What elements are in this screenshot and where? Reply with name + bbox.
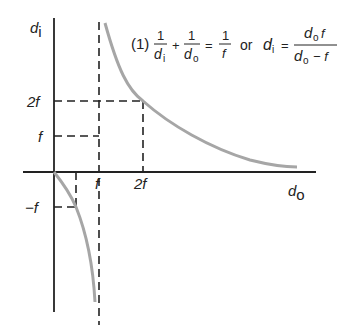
svg-text:1: 1 [222, 28, 229, 43]
svg-text:1: 1 [157, 28, 164, 43]
y-tick-f: f [38, 128, 44, 145]
guide-lines [54, 22, 143, 325]
lens-equation: (1) 1 d i + 1 d o = 1 f or d i = d o f d… [131, 24, 337, 66]
x-tick-f: f [95, 175, 101, 192]
y-tick-neg-f: −f [25, 199, 40, 216]
x-tick-2f: 2f [133, 175, 148, 192]
svg-text:d: d [184, 46, 193, 62]
svg-text:o: o [313, 32, 319, 43]
svg-text:(1): (1) [131, 35, 149, 52]
svg-text:=: = [281, 38, 289, 53]
x-axis-label: do [288, 182, 305, 203]
svg-text:=: = [205, 38, 213, 53]
svg-text:+: + [172, 38, 180, 53]
svg-text:− f: − f [313, 49, 329, 64]
svg-text:i: i [272, 44, 274, 55]
lens-equation-diagram: di do 2f f −f f 2f (1) 1 d i + 1 d o = 1… [0, 0, 349, 328]
svg-text:o: o [193, 53, 199, 64]
svg-text:d: d [294, 47, 303, 64]
y-tick-2f: 2f [26, 93, 41, 110]
svg-text:o: o [303, 55, 309, 66]
svg-text:d: d [304, 24, 313, 41]
virtual-image-curve [54, 172, 95, 302]
svg-text:i: i [163, 53, 165, 64]
svg-text:f: f [321, 26, 326, 41]
svg-text:d: d [154, 46, 163, 62]
svg-text:1: 1 [188, 28, 195, 43]
y-axis-label: di [30, 19, 42, 40]
svg-text:f: f [222, 46, 227, 61]
svg-text:or: or [240, 37, 253, 53]
